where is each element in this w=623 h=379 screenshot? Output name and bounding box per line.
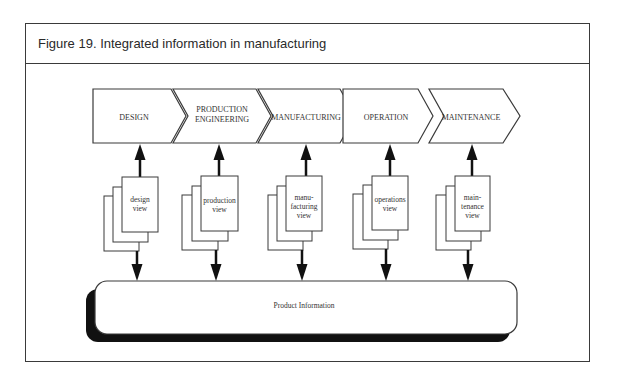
view-stack: production view	[182, 176, 238, 250]
stage-design: DESIGN	[93, 89, 186, 143]
view-label-line1: production	[203, 196, 236, 205]
stage-maintenance: MAINTENANCE	[429, 89, 520, 143]
stage-chevrons: DESIGN PRODUCTION ENGINEERING MANUFACTUR…	[93, 89, 520, 143]
integrated-information-diagram: DESIGN PRODUCTION ENGINEERING MANUFACTUR…	[0, 0, 623, 379]
view-column-maintenance: main- tenance view	[436, 144, 490, 281]
view-label-line3: view	[297, 211, 312, 220]
view-label-line2: view	[212, 205, 227, 214]
view-label-line1: manu-	[294, 193, 314, 202]
up-arrow-icon	[467, 144, 478, 176]
view-column-operations: operations view	[353, 144, 408, 281]
down-arrow-icon	[381, 249, 392, 281]
view-stack: manu- facturing view	[268, 176, 322, 250]
stage-label-line2: ENGINEERING	[195, 115, 249, 124]
down-arrow-icon	[463, 250, 474, 281]
view-label-line2: view	[133, 204, 148, 213]
down-arrow-icon	[132, 251, 143, 281]
stage-label: MAINTENANCE	[442, 113, 501, 122]
stage-operation: OPERATION	[343, 89, 433, 143]
stage-label: OPERATION	[364, 113, 409, 122]
view-column-design: design view	[104, 144, 158, 281]
view-stack: operations view	[353, 176, 408, 249]
view-label-line1: main-	[464, 193, 482, 202]
stage-manufacturing: MANUFACTURING	[258, 89, 355, 143]
view-label-line2: tenance	[461, 202, 485, 211]
view-stack: design view	[104, 177, 158, 251]
view-column-manufacturing: manu- facturing view	[268, 144, 322, 281]
view-label-line1: design	[130, 195, 150, 204]
view-label-line2: view	[383, 204, 398, 213]
down-arrow-icon	[211, 250, 222, 281]
up-arrow-icon	[385, 144, 396, 176]
view-label-line1: operations	[374, 195, 405, 204]
stage-label-line1: PRODUCTION	[196, 105, 248, 114]
down-arrow-icon	[297, 250, 308, 281]
view-label-line2: facturing	[290, 202, 317, 211]
stage-label: MANUFACTURING	[271, 113, 341, 122]
product-information-repository: Product Information	[86, 281, 517, 342]
stage-production-engineering: PRODUCTION ENGINEERING	[173, 89, 271, 143]
repository-label: Product Information	[273, 301, 334, 310]
up-arrow-icon	[214, 144, 225, 176]
up-arrow-icon	[135, 144, 146, 177]
view-label-line3: view	[465, 211, 480, 220]
stage-label: DESIGN	[119, 113, 149, 122]
up-arrow-icon	[301, 144, 312, 176]
view-column-production: production view	[182, 144, 238, 281]
view-stack: main- tenance view	[436, 176, 490, 250]
